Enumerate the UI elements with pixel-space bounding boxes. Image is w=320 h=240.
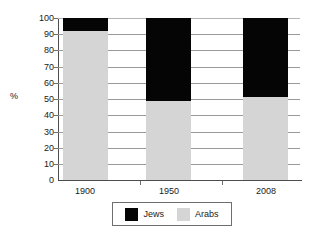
y-tickmark-30 xyxy=(54,132,58,133)
black-swatch-icon xyxy=(125,208,138,221)
bar-segment-arabs-1900 xyxy=(63,31,108,180)
y-ticklabel-20: 20 xyxy=(22,143,54,153)
x-axis-line xyxy=(58,180,302,181)
y-axis-ticklabels: 100 90 80 70 60 50 40 30 20 10 0 xyxy=(22,13,54,183)
y-ticklabel-40: 40 xyxy=(22,110,54,120)
y-ticklabel-100: 100 xyxy=(22,13,54,23)
y-ticklabel-80: 80 xyxy=(22,45,54,55)
bar-1950 xyxy=(146,18,191,180)
bar-segment-arabs-2008 xyxy=(243,97,288,180)
legend-label-jews: Jews xyxy=(143,209,164,219)
y-axis-label: % xyxy=(6,91,22,101)
stacked-bar-chart: % 100 90 80 70 60 50 40 30 20 10 0 xyxy=(0,0,320,240)
legend-label-arabs: Arabs xyxy=(195,209,219,219)
y-ticklabel-70: 70 xyxy=(22,62,54,72)
y-ticklabel-30: 30 xyxy=(22,127,54,137)
bar-2008 xyxy=(243,18,288,180)
y-tickmark-90 xyxy=(54,34,58,35)
bar-segment-jews-1900 xyxy=(63,18,108,31)
x-ticklabel-1900: 1900 xyxy=(55,186,115,197)
bar-segment-arabs-1950 xyxy=(146,101,191,180)
legend-items: Jews Arabs xyxy=(113,203,231,225)
y-tickmark-20 xyxy=(54,148,58,149)
y-tickmark-40 xyxy=(54,115,58,116)
gray-swatch-icon xyxy=(177,208,190,221)
bar-segment-jews-1950 xyxy=(146,18,191,101)
y-ticklabel-50: 50 xyxy=(22,94,54,104)
y-tickmark-60 xyxy=(54,83,58,84)
y-tickmark-10 xyxy=(54,164,58,165)
plot-area xyxy=(58,18,300,180)
x-ticklabel-1950: 1950 xyxy=(139,186,199,197)
y-tickmark-70 xyxy=(54,67,58,68)
y-tickmark-80 xyxy=(54,50,58,51)
legend-item-arabs: Arabs xyxy=(177,208,219,221)
y-ticklabel-90: 90 xyxy=(22,29,54,39)
y-tickmark-100 xyxy=(54,18,58,19)
bar-segment-jews-2008 xyxy=(243,18,288,97)
bar-1900 xyxy=(63,18,108,180)
legend-item-jews: Jews xyxy=(125,208,164,221)
x-tickmark-2 xyxy=(222,181,223,185)
y-ticklabel-60: 60 xyxy=(22,78,54,88)
x-tickmark-1 xyxy=(140,181,141,185)
y-ticklabel-0: 0 xyxy=(22,175,54,185)
y-tickmark-50 xyxy=(54,99,58,100)
x-ticklabel-2008: 2008 xyxy=(236,186,296,197)
y-ticklabel-10: 10 xyxy=(22,159,54,169)
chart-legend: Jews Arabs xyxy=(112,202,232,226)
